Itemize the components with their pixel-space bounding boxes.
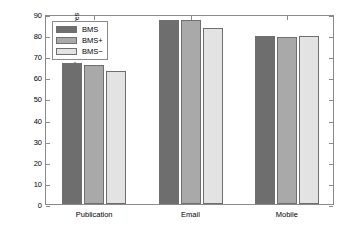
chart-legend: BMSBMS+BMS− [52,21,108,60]
legend-swatch [56,48,77,55]
y-tick-mark [329,206,333,207]
y-tick-mark [46,37,50,38]
plot-area: Average F1−score of learning curves 0102… [45,15,334,205]
y-tick-label: 60 [24,74,42,84]
y-tick-mark [329,164,333,165]
y-tick-mark [46,79,50,80]
x-tick-label: Publication [49,210,139,219]
y-tick-mark [329,143,333,144]
bar [106,71,126,204]
y-tick-mark [329,100,333,101]
y-tick-mark [46,185,50,186]
legend-item[interactable]: BMS+ [56,35,103,46]
y-tick-mark [46,143,50,144]
y-tick-mark [329,37,333,38]
y-tick-mark [46,206,50,207]
y-tick-mark [329,16,333,17]
legend-label: BMS [82,25,98,34]
legend-swatch [56,37,77,44]
bar [299,36,319,204]
bar-chart-figure: Average F1−score of learning curves 0102… [0,0,349,233]
bar [255,36,275,204]
bar [159,20,179,204]
y-tick-label: 90 [24,11,42,21]
y-tick-mark [46,16,50,17]
y-tick-label: 50 [24,95,42,105]
legend-item[interactable]: BMS [56,24,103,35]
y-tick-label: 0 [24,201,42,211]
bar [62,63,82,204]
y-tick-mark [329,58,333,59]
legend-label: BMS+ [82,36,103,45]
y-tick-label: 30 [24,138,42,148]
y-tick-label: 80 [24,32,42,42]
legend-item[interactable]: BMS− [56,46,103,57]
legend-label: BMS− [82,47,103,56]
x-tick-mark [287,16,288,20]
x-tick-label: Email [146,210,236,219]
y-tick-mark [329,122,333,123]
y-tick-mark [329,185,333,186]
y-tick-mark [46,164,50,165]
bar [84,65,104,204]
bar [203,28,223,204]
y-tick-mark [329,79,333,80]
x-tick-mark [94,16,95,20]
legend-swatch [56,26,77,33]
bar [277,37,297,204]
y-tick-label: 70 [24,53,42,63]
y-tick-mark [46,122,50,123]
y-tick-label: 20 [24,159,42,169]
y-tick-mark [46,58,50,59]
x-tick-label: Mobile [242,210,332,219]
y-tick-mark [46,100,50,101]
bar [181,20,201,204]
y-tick-label: 10 [24,180,42,190]
y-tick-label: 40 [24,117,42,127]
